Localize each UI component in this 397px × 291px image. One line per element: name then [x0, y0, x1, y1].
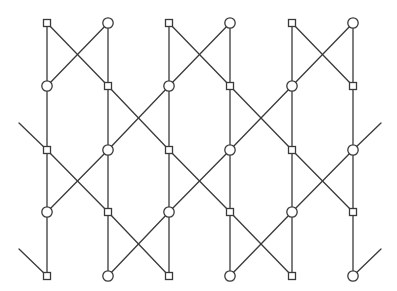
stub-edge-left	[19, 123, 47, 150]
circle-node	[42, 207, 52, 217]
square-node	[44, 273, 51, 280]
circle-node	[103, 271, 113, 281]
square-node	[105, 209, 112, 216]
square-node	[289, 20, 296, 27]
square-node	[44, 147, 51, 154]
circle-node	[164, 207, 174, 217]
square-node	[44, 20, 51, 27]
square-node	[289, 147, 296, 154]
circle-node	[348, 145, 358, 155]
circle-node	[348, 18, 358, 28]
circle-node	[164, 81, 174, 91]
square-node	[227, 209, 234, 216]
square-node	[105, 83, 112, 90]
stub-edge-left	[19, 249, 47, 276]
circle-node	[287, 81, 297, 91]
circle-node	[225, 145, 235, 155]
circle-node	[42, 81, 52, 91]
square-node	[227, 83, 234, 90]
square-node	[166, 147, 173, 154]
circle-node	[287, 207, 297, 217]
circle-node	[103, 18, 113, 28]
circle-node	[225, 18, 235, 28]
square-node	[166, 20, 173, 27]
square-node	[289, 273, 296, 280]
circle-node	[103, 145, 113, 155]
lattice-diagram	[0, 0, 397, 291]
square-node	[166, 273, 173, 280]
circle-node	[348, 271, 358, 281]
nodes-layer	[42, 18, 358, 281]
square-node	[350, 83, 357, 90]
square-node	[350, 209, 357, 216]
edges-layer	[19, 23, 381, 276]
circle-node	[225, 271, 235, 281]
